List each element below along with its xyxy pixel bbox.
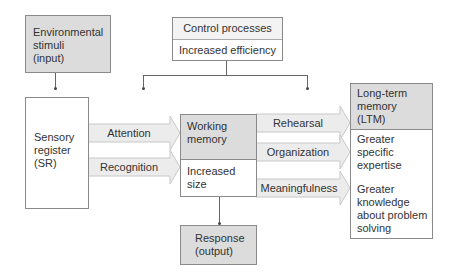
ltm-knowledge4: solving — [357, 222, 427, 235]
control-stem-line — [226, 60, 227, 75]
env-line2: stimuli — [33, 39, 103, 52]
organization-label: Organization — [256, 146, 340, 159]
recognition-label: Recognition — [88, 161, 170, 174]
ltm-line1: Long-term — [357, 87, 407, 100]
sr-line2: register — [34, 144, 74, 157]
wm-line2: memory — [187, 133, 227, 146]
response-line1: Response — [195, 232, 245, 245]
ltm-expertise2: specific — [357, 146, 402, 159]
env-line1: Environmental — [33, 26, 103, 39]
wm-sub1: Increased — [187, 165, 235, 178]
wm-to-response-line — [219, 196, 220, 224]
control-bar-line — [143, 75, 308, 76]
sensory-register-box: Sensory register (SR) — [25, 97, 89, 209]
ltm-line2: memory — [357, 100, 407, 113]
ltm-expertise1: Greater — [357, 133, 402, 146]
working-memory-box: Working memory Increased size — [180, 114, 257, 197]
wm-header: Working memory — [181, 115, 256, 160]
long-term-memory-box: Long-term memory (LTM) Greater specific … — [350, 83, 433, 239]
response-line2: (output) — [195, 245, 245, 258]
env-line3: (input) — [33, 52, 103, 65]
env-to-sr-line — [55, 72, 56, 88]
control-title: Control processes — [173, 18, 282, 40]
ltm-expertise3: expertise — [357, 159, 402, 172]
control-right-drop — [307, 75, 308, 87]
environmental-stimuli-box: Environmental stimuli (input) — [25, 15, 111, 73]
control-left-arrowhead — [142, 87, 145, 90]
env-to-sr-arrowhead — [54, 87, 57, 90]
wm-sub2: size — [187, 178, 235, 191]
control-processes-box: Control processes Increased efficiency — [172, 17, 283, 61]
ltm-line3: (LTM) — [357, 113, 407, 126]
ltm-knowledge3: about problem — [357, 209, 427, 222]
response-box: Response (output) — [180, 225, 257, 265]
control-subtitle: Increased efficiency — [173, 40, 282, 61]
wm-line1: Working — [187, 120, 227, 133]
control-left-drop — [143, 75, 144, 87]
attention-label: Attention — [88, 127, 170, 140]
ltm-knowledge1: Greater — [357, 183, 427, 196]
rehearsal-label: Rehearsal — [256, 117, 340, 130]
sr-line1: Sensory — [34, 131, 74, 144]
ltm-header: Long-term memory (LTM) — [351, 84, 432, 130]
meaningfulness-label: Meaningfulness — [256, 182, 342, 195]
sr-line3: (SR) — [34, 157, 74, 170]
control-right-arrowhead — [306, 87, 309, 90]
ltm-knowledge2: knowledge — [357, 196, 427, 209]
